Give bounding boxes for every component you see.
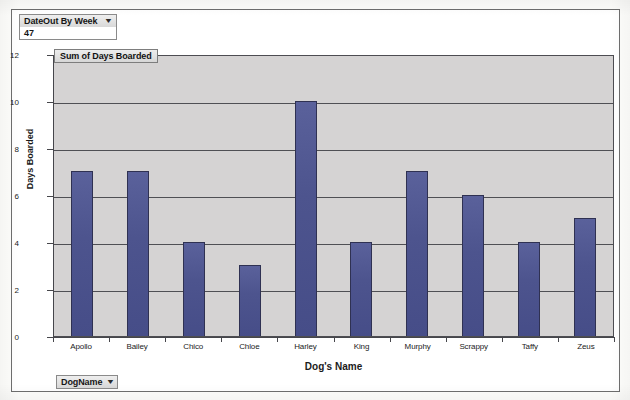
y-tick-mark	[47, 290, 53, 291]
page-filter-field-button[interactable]: DateOut By Week ▼	[19, 14, 117, 28]
x-tick-label: Chloe	[221, 342, 277, 351]
y-tick-label: 6	[0, 192, 19, 201]
y-tick-label: 4	[0, 239, 19, 248]
chart-title: Sum of Days Boarded	[54, 49, 158, 63]
y-tick-mark	[47, 102, 53, 103]
y-tick-mark	[47, 196, 53, 197]
bar-zeus[interactable]	[574, 218, 596, 336]
pivot-chart: Sum of Days Boarded 024681012 Days Board…	[11, 9, 620, 392]
plot-area	[53, 55, 614, 337]
bar-chico[interactable]	[183, 242, 205, 336]
bar-series	[54, 56, 613, 336]
bar-murphy[interactable]	[406, 171, 428, 336]
x-axis-title: Dog's Name	[53, 361, 614, 372]
x-tick-label: Chico	[165, 342, 221, 351]
y-tick-label: 0	[0, 333, 19, 342]
axis-field-button[interactable]: DogName ▼	[56, 375, 118, 389]
y-axis-title: Days Boarded	[25, 104, 35, 214]
bar-taffy[interactable]	[518, 242, 540, 336]
chevron-down-icon[interactable]: ▼	[106, 378, 115, 385]
axis-field-label: DogName	[61, 377, 102, 387]
bar-king[interactable]	[350, 242, 372, 336]
x-tick-label: King	[333, 342, 389, 351]
x-tick-label: Zeus	[558, 342, 614, 351]
y-tick-mark	[47, 55, 53, 56]
page-filter-value[interactable]: 47	[19, 27, 117, 40]
scanned-page: Sum of Days Boarded 024681012 Days Board…	[0, 0, 630, 400]
bar-bailey[interactable]	[127, 171, 149, 336]
bar-slot	[278, 56, 334, 336]
bar-slot	[54, 56, 110, 336]
bar-slot	[334, 56, 390, 336]
bar-slot	[445, 56, 501, 336]
x-axis-tick-labels: ApolloBaileyChicoChloeHarleyKingMurphySc…	[53, 342, 614, 351]
page-filter-field-label: DateOut By Week	[24, 16, 97, 26]
x-tick-mark	[614, 338, 615, 342]
x-tick-label: Murphy	[390, 342, 446, 351]
bar-slot	[110, 56, 166, 336]
x-tick-label: Bailey	[109, 342, 165, 351]
x-tick-label: Apollo	[53, 342, 109, 351]
chevron-down-icon[interactable]: ▼	[104, 17, 113, 24]
bar-harley[interactable]	[295, 101, 317, 336]
x-tick-label: Harley	[277, 342, 333, 351]
bar-scrappy[interactable]	[462, 195, 484, 336]
bar-slot	[501, 56, 557, 336]
y-tick-label: 10	[0, 98, 19, 107]
bar-slot	[557, 56, 613, 336]
bar-slot	[389, 56, 445, 336]
bar-slot	[166, 56, 222, 336]
x-tick-label: Scrappy	[446, 342, 502, 351]
y-tick-label: 2	[0, 286, 19, 295]
y-tick-label: 8	[0, 145, 19, 154]
y-axis-line	[53, 55, 54, 338]
page-filter-value-label: 47	[24, 28, 34, 38]
y-tick-mark	[47, 243, 53, 244]
x-tick-label: Taffy	[502, 342, 558, 351]
bar-slot	[222, 56, 278, 336]
bar-apollo[interactable]	[71, 171, 93, 336]
bar-chloe[interactable]	[239, 265, 261, 336]
y-tick-mark	[47, 149, 53, 150]
y-tick-label: 12	[0, 51, 19, 60]
